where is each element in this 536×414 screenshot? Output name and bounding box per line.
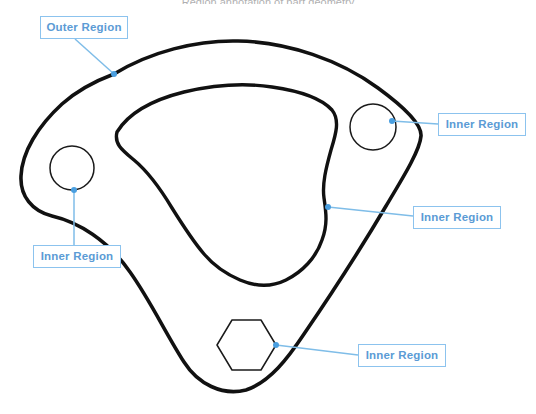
callout-inner-region-top-right[interactable]: Inner Region: [438, 113, 526, 136]
callout-inner-region-left[interactable]: Inner Region: [33, 245, 121, 268]
callout-label: Outer Region: [46, 22, 121, 34]
hole-hexagon: [217, 320, 276, 370]
leader-anchor-dot-inner-region-top-right: [389, 118, 395, 124]
callout-outer-region[interactable]: Outer Region: [40, 16, 128, 39]
callout-label: Inner Region: [366, 350, 439, 362]
callout-inner-region-hex[interactable]: Inner Region: [358, 344, 446, 367]
callout-label: Inner Region: [41, 251, 114, 263]
leader-anchor-dot-inner-region-center: [325, 204, 331, 210]
leader-line-outer-region: [75, 39, 114, 74]
drawing-canvas: Region annotation of part geometry Outer…: [0, 0, 536, 414]
holes-group: [50, 104, 396, 370]
callout-label: Inner Region: [446, 119, 519, 131]
leader-line-inner-region-center: [328, 207, 413, 216]
callout-inner-region-center[interactable]: Inner Region: [413, 206, 501, 229]
inner-region-cutout: [116, 85, 336, 285]
callout-label: Inner Region: [421, 212, 494, 224]
leader-anchor-dot-outer-region: [111, 71, 117, 77]
hole-right-circle: [350, 104, 396, 150]
leader-anchor-dot-inner-region-hex: [273, 342, 279, 348]
hole-left-circle: [50, 146, 94, 190]
leader-anchor-dot-inner-region-left: [71, 187, 77, 193]
